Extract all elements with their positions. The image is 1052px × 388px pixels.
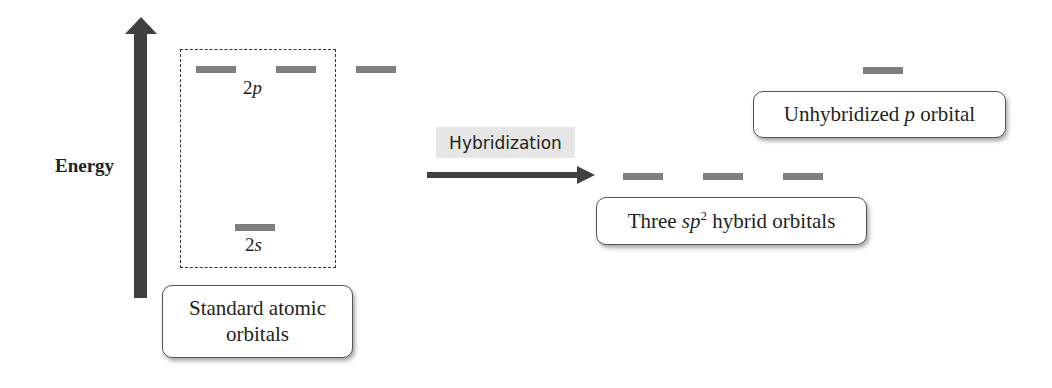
orbital-2s — [235, 224, 275, 231]
standard-callout-line2: orbitals — [189, 322, 326, 347]
energy-axis-label: Energy — [55, 155, 114, 177]
hybridization-arrow-shaft — [427, 172, 579, 178]
energy-arrow-shaft — [134, 32, 147, 298]
orbital-2p-3 — [356, 66, 396, 73]
orbital-unhybridized-p — [863, 67, 903, 74]
orbital-sp2-2 — [703, 173, 743, 180]
orbital-2p-1 — [196, 66, 236, 73]
sp2-orbitals-callout: Three sp2 hybrid orbitals — [596, 197, 867, 245]
label-2p: 2p — [243, 77, 262, 99]
standard-callout-line1: Standard atomic — [189, 296, 326, 321]
hybridization-arrow-head-icon — [577, 166, 595, 184]
orbital-sp2-1 — [623, 173, 663, 180]
unhybridized-orbital-callout: Unhybridized p orbital — [753, 91, 1006, 138]
standard-orbitals-callout: Standard atomic orbitals — [162, 285, 353, 358]
orbital-2p-2 — [276, 66, 316, 73]
hybridization-label: Hybridization — [436, 127, 575, 158]
orbital-sp2-3 — [783, 173, 823, 180]
label-2s: 2s — [245, 234, 262, 256]
